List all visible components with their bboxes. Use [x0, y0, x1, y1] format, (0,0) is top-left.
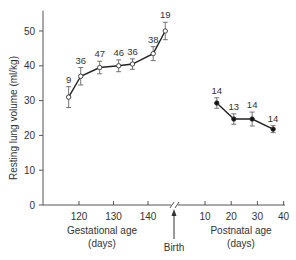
- data-point: [215, 101, 219, 105]
- chart-canvas: 01020304050120130140Gestational age(days…: [0, 0, 296, 260]
- x-axis-label-units: (days): [88, 238, 116, 249]
- x-tick-label: 30: [252, 211, 264, 222]
- sample-size-label: 13: [229, 101, 240, 112]
- y-tick-label: 40: [24, 60, 36, 71]
- sample-size-label: 36: [127, 46, 138, 57]
- sample-size-label: 46: [113, 47, 124, 58]
- data-point: [271, 127, 275, 131]
- sample-size-label: 14: [247, 99, 258, 110]
- sample-size-label: 9: [66, 74, 71, 85]
- y-tick-label: 10: [24, 165, 36, 176]
- x-axis-label: Postnatal age: [210, 225, 272, 236]
- x-tick-label: 40: [278, 211, 290, 222]
- plot-area: 936474636381914131414: [66, 9, 278, 132]
- y-tick-label: 20: [24, 130, 36, 141]
- data-point: [66, 95, 70, 99]
- lung-volume-chart: 01020304050120130140Gestational age(days…: [0, 0, 296, 260]
- sample-size-label: 14: [268, 113, 279, 124]
- sample-size-label: 38: [148, 34, 159, 45]
- y-tick-label: 30: [24, 95, 36, 106]
- y-axis-label: Resting lung volume (ml/kg): [8, 56, 19, 180]
- data-point: [151, 51, 155, 55]
- arrow-head-icon: [172, 209, 177, 216]
- x-tick-label: 20: [226, 211, 238, 222]
- y-tick-label: 0: [29, 200, 35, 211]
- data-point: [116, 64, 120, 68]
- sample-size-label: 19: [160, 9, 171, 20]
- x-tick-label: 140: [140, 211, 157, 222]
- birth-label: Birth: [164, 242, 185, 253]
- sample-size-label: 36: [75, 55, 86, 66]
- data-point: [79, 74, 83, 78]
- sample-size-label: 47: [94, 48, 105, 59]
- x-tick-label: 120: [71, 211, 88, 222]
- series-line: [217, 103, 273, 129]
- x-axis-label-units: (days): [227, 238, 255, 249]
- x-tick-label: 130: [105, 211, 122, 222]
- data-point: [130, 62, 134, 66]
- x-tick-label: 10: [199, 211, 211, 222]
- data-point: [250, 117, 254, 121]
- data-point: [98, 65, 102, 69]
- data-point: [232, 117, 236, 121]
- sample-size-label: 14: [212, 85, 223, 96]
- data-point: [163, 29, 167, 33]
- x-axis-label: Gestational age: [67, 225, 137, 236]
- y-tick-label: 50: [24, 26, 36, 37]
